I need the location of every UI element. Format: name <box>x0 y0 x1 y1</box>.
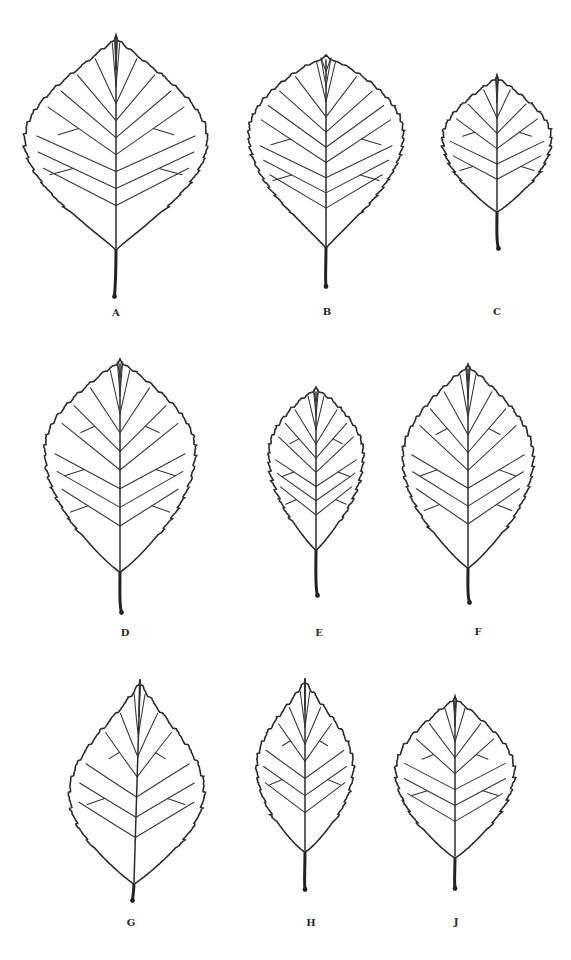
leaf-label-h: H <box>306 917 315 928</box>
leaf-label-b: B <box>323 306 331 317</box>
leaf-stem <box>497 208 499 248</box>
leaf-h <box>256 678 355 892</box>
leaf-plate: A B C D E F G H J <box>0 0 571 960</box>
leaf-stem-tip <box>453 886 458 891</box>
leaf-label-a: A <box>111 307 120 318</box>
leaf-vein-right <box>305 681 306 710</box>
leaf-a <box>23 35 208 299</box>
leaf-stem-tip <box>315 593 320 598</box>
leaf-stem-tip <box>112 294 117 299</box>
leaf-d <box>44 359 197 615</box>
leaf-g <box>68 679 205 903</box>
leaf-label-j: J <box>453 916 459 927</box>
leaf-e <box>268 387 365 598</box>
leaf-stem <box>468 564 470 602</box>
leaf-label-c: C <box>493 306 501 317</box>
leaf-stem <box>316 546 318 595</box>
leaf-stem-tip <box>496 246 501 251</box>
leaf-label-f: F <box>474 626 481 637</box>
leaf-stem <box>120 568 122 612</box>
leaf-stem-tip <box>119 610 124 615</box>
leaf-j <box>395 696 516 891</box>
leaf-label-g: G <box>127 917 136 928</box>
leaf-label-e: E <box>315 627 323 638</box>
leaf-stem-tip <box>303 887 308 892</box>
leaf-b <box>248 55 405 289</box>
leaf-stem <box>115 246 117 296</box>
leaf-f <box>402 364 534 605</box>
leaf-stem-tip <box>130 898 135 903</box>
leaf-stem-tip <box>467 600 472 605</box>
leaf-stem-tip <box>324 284 329 289</box>
leaf-c <box>441 75 552 251</box>
leaf-label-d: D <box>121 627 130 638</box>
